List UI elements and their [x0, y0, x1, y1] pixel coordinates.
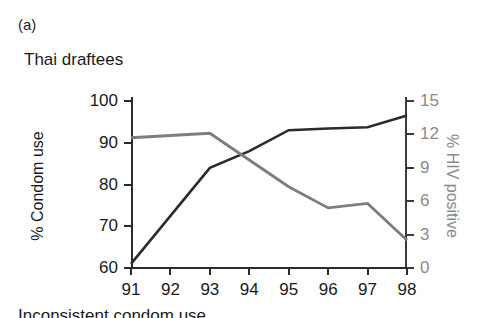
left-axis-tick-label: 60 — [78, 259, 118, 276]
right-axis-tick-label: 15 — [420, 92, 460, 109]
x-axis-tick-label: 97 — [348, 281, 388, 298]
x-axis-tick — [288, 268, 290, 275]
x-axis-tick-label: 94 — [229, 281, 269, 298]
series-lines — [131, 101, 407, 268]
chart-title: Thai draftees — [24, 51, 123, 68]
left-axis-tick-label: 70 — [78, 217, 118, 234]
right-axis-tick-label: 0 — [420, 259, 460, 276]
x-axis-tick — [248, 268, 250, 275]
plot-area: 60708090100036912159192939495969798 — [131, 101, 407, 268]
figure-panel-a: (a) Thai draftees % Condom use % HIV pos… — [0, 0, 486, 318]
left-axis-tick-label: 80 — [78, 176, 118, 193]
right-axis-tick — [406, 167, 414, 169]
x-axis-tick — [130, 268, 132, 275]
left-axis-title: % Condom use — [30, 106, 46, 266]
x-axis-tick-label: 92 — [150, 281, 190, 298]
line-hiv-positive — [131, 133, 407, 240]
right-axis-tick — [406, 234, 414, 236]
x-axis-tick — [209, 268, 211, 275]
x-axis-tick — [406, 268, 408, 275]
left-axis-tick-label: 90 — [78, 134, 118, 151]
x-axis-tick-label: 93 — [190, 281, 230, 298]
right-axis-tick-label: 3 — [420, 226, 460, 243]
cropped-legend-text: Inconsistent condom use — [18, 307, 206, 318]
left-axis-tick-label: 100 — [78, 92, 118, 109]
right-axis-tick-label: 12 — [420, 125, 460, 142]
right-axis-tick — [406, 200, 414, 202]
x-axis-tick — [327, 268, 329, 275]
right-axis-tick — [406, 133, 414, 135]
x-axis-tick-label: 95 — [269, 281, 309, 298]
x-axis-tick-label: 96 — [308, 281, 348, 298]
right-axis-tick-label: 6 — [420, 192, 460, 209]
right-axis-tick — [406, 100, 414, 102]
line-condom-use — [131, 116, 407, 264]
panel-label: (a) — [18, 17, 36, 32]
right-axis-tick-label: 9 — [420, 159, 460, 176]
x-axis-tick-label: 98 — [387, 281, 427, 298]
x-axis-tick — [169, 268, 171, 275]
x-axis-tick-label: 91 — [111, 281, 151, 298]
x-axis-tick — [367, 268, 369, 275]
